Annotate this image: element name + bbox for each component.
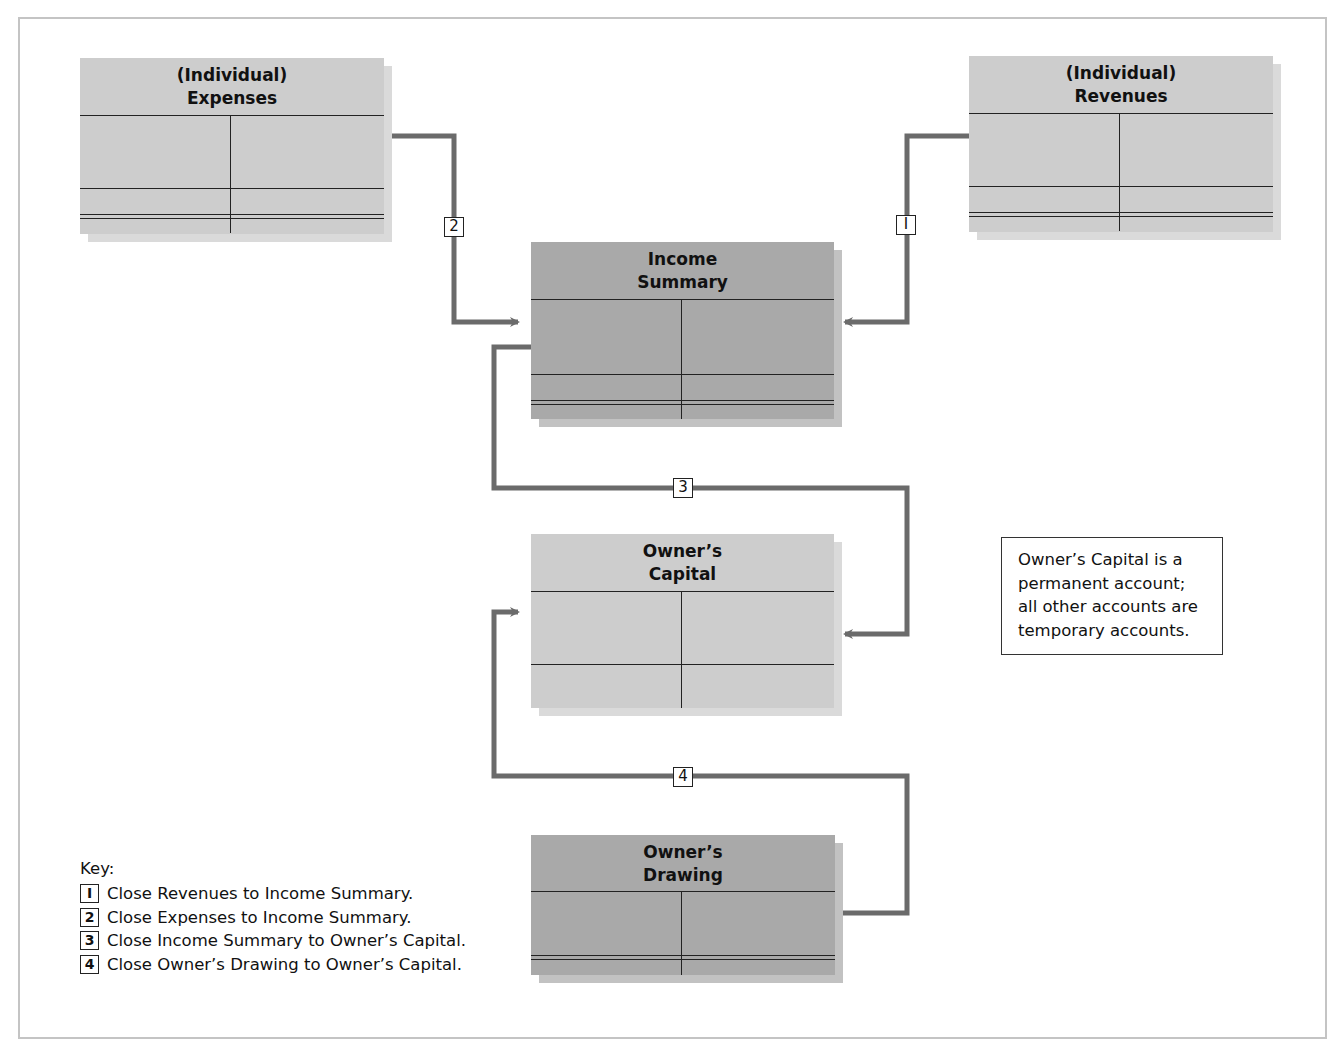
account-title: (Individual) Revenues	[969, 62, 1273, 108]
t-account-double-line-2	[531, 404, 834, 405]
t-account-divider	[681, 591, 682, 708]
account-face: (Individual) Revenues	[969, 56, 1273, 232]
t-account-double-line-2	[969, 216, 1273, 217]
account-title: Income Summary	[531, 248, 834, 294]
t-account-divider	[230, 115, 231, 233]
legend-text: Close Expenses to Income Summary.	[107, 908, 411, 927]
t-account-top-line	[531, 591, 834, 592]
t-account-double-line-1	[80, 214, 384, 215]
legend-item: 3 Close Income Summary to Owner’s Capita…	[80, 929, 466, 953]
legend-text: Close Owner’s Drawing to Owner’s Capital…	[107, 955, 462, 974]
legend-text: Close Revenues to Income Summary.	[107, 884, 413, 903]
t-account-divider	[681, 299, 682, 419]
legend-title: Key:	[80, 856, 466, 882]
t-account-total-line	[531, 664, 834, 665]
t-account-divider	[1119, 113, 1120, 231]
legend-item: 2 Close Expenses to Income Summary.	[80, 906, 466, 930]
legend-item: I Close Revenues to Income Summary.	[80, 882, 466, 906]
account-face: (Individual) Expenses	[80, 58, 384, 234]
t-account-top-line	[531, 891, 835, 892]
permanent-account-note: Owner’s Capital is a permanent account; …	[1001, 537, 1223, 655]
account-revenues: (Individual) Revenues	[969, 56, 1273, 232]
legend-item: 4 Close Owner’s Drawing to Owner’s Capit…	[80, 953, 466, 977]
legend-badge: 2	[80, 908, 99, 927]
t-account-double-line-2	[531, 959, 835, 960]
t-account-double-line-1	[969, 212, 1273, 213]
t-account-divider	[681, 891, 682, 975]
step-badge-3: 3	[673, 478, 693, 498]
t-account-total-line	[80, 188, 384, 189]
account-income-summary: Income Summary	[531, 242, 834, 419]
t-account-double-line-2	[80, 218, 384, 219]
t-account-top-line	[80, 115, 384, 116]
legend-badge: 4	[80, 955, 99, 974]
t-account-double-line-1	[531, 955, 835, 956]
account-title: Owner’s Drawing	[531, 841, 835, 887]
legend-badge: I	[80, 884, 99, 903]
step-badge-1: I	[896, 215, 916, 235]
account-title: Owner’s Capital	[531, 540, 834, 586]
legend-badge: 3	[80, 931, 99, 950]
t-account-top-line	[969, 113, 1273, 114]
account-face: Owner’s Drawing	[531, 835, 835, 975]
legend-text: Close Income Summary to Owner’s Capital.	[107, 931, 466, 950]
t-account-total-line	[969, 186, 1273, 187]
t-account-total-line	[531, 374, 834, 375]
account-face: Income Summary	[531, 242, 834, 419]
account-face: Owner’s Capital	[531, 534, 834, 708]
account-title: (Individual) Expenses	[80, 64, 384, 110]
account-owners-capital: Owner’s Capital	[531, 534, 834, 708]
legend-key: Key: I Close Revenues to Income Summary.…	[80, 856, 466, 976]
t-account-double-line-1	[531, 400, 834, 401]
step-badge-2: 2	[444, 217, 464, 237]
account-expenses: (Individual) Expenses	[80, 58, 384, 234]
step-badge-4: 4	[673, 767, 693, 787]
t-account-top-line	[531, 299, 834, 300]
account-owners-drawing: Owner’s Drawing	[531, 835, 835, 975]
